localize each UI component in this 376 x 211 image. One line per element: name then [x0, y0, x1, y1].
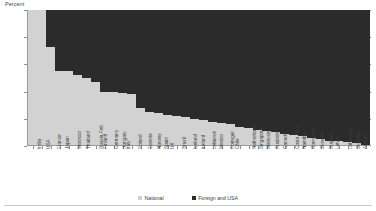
x-axis-label: Canada	[284, 133, 289, 149]
x-label-slot: Ireland	[190, 149, 198, 191]
x-label-slot: Austria	[352, 149, 360, 191]
x-label-slot: Hungary	[109, 149, 117, 191]
x-axis-label: Poland	[139, 134, 144, 149]
x-label-slot: Malaysia	[253, 149, 261, 191]
y-tick-mark-20	[24, 119, 27, 120]
x-label-slot: Lithuania	[334, 149, 342, 191]
x-axis-label: Singapore	[259, 128, 264, 149]
x-axis-label: Italy	[127, 140, 132, 149]
x-axis-label: Costa Rica	[296, 126, 301, 149]
x-label-slot: Mexico	[208, 149, 216, 191]
plot-frame	[27, 10, 371, 146]
x-axis-label: Morocco	[77, 131, 82, 149]
x-label-slot: Russia Fed.	[82, 149, 90, 191]
x-label-slot: India	[28, 149, 36, 191]
x-label-slot: Norway	[145, 149, 153, 191]
plot-area	[27, 10, 371, 146]
x-axis-label: Japan	[66, 136, 71, 149]
x-axis-label: Namibia	[302, 132, 307, 149]
x-label-slot: Costa Rica	[280, 149, 288, 191]
x-label-slot: Germany	[100, 149, 108, 191]
x-label-slot: Switzerland	[361, 149, 369, 191]
x-label-slot: Australia	[262, 149, 270, 191]
x-label-slot: Morocco	[64, 149, 72, 191]
x-label-slot: Netherlands	[235, 149, 243, 191]
x-label-slot: Iceland	[181, 149, 189, 191]
y-axis-title: Percent	[5, 1, 24, 7]
x-axis-label: Chile	[236, 138, 241, 149]
x-axis-label: Iceland	[193, 134, 198, 149]
x-axis-label: Mexico	[220, 134, 225, 149]
x-label-slot: Romania	[298, 149, 306, 191]
x-axis-label: Germany	[114, 130, 119, 149]
x-label-slot: Slovakia	[343, 149, 351, 191]
x-label-slot: Latvia	[325, 149, 333, 191]
x-label-slot: UK	[163, 149, 171, 191]
x-label-slot: Portugal	[217, 149, 225, 191]
x-label-slot: Slovenia	[307, 149, 315, 191]
chart-legend: NationalForeign and USA	[0, 193, 376, 203]
x-label-slot: Singapore	[244, 149, 252, 191]
x-label-slot: Namibia	[289, 149, 297, 191]
x-label-slot: Chile	[226, 149, 234, 191]
x-axis-label: Finland	[103, 134, 108, 149]
x-axis-label: Estonia	[148, 133, 153, 149]
x-label-slot: Brazil	[172, 149, 180, 191]
x-label-slot: Canada	[271, 149, 279, 191]
legend-label: Foreign and USA	[198, 195, 238, 201]
y-tick-mark-40	[24, 92, 27, 93]
x-label-slot: Japan	[55, 149, 63, 191]
y-tick-mark-80	[24, 37, 27, 38]
x-axis-label: Brazil	[182, 137, 187, 149]
x-axis-labels: IndiaUSAFranceJapanMoroccoThailandRussia…	[27, 149, 371, 191]
x-axis-label: Portugal	[230, 132, 235, 149]
x-axis-label: India	[38, 139, 43, 149]
x-label-slot: France	[46, 149, 54, 191]
legend-swatch-icon	[192, 196, 196, 200]
x-axis-label: Lebanon	[213, 131, 218, 149]
x-axis-label: Thailand	[86, 131, 91, 149]
x-axis-label: Australia	[276, 131, 281, 149]
x-label-slot: USA	[37, 149, 45, 191]
x-label-slot: Spain	[154, 149, 162, 191]
legend-swatch-icon	[138, 196, 142, 200]
chart-page: Percent 020406080100 IndiaUSAFranceJapan…	[0, 0, 376, 211]
x-axis-label: Austria	[364, 134, 369, 149]
x-axis-label: Spain	[165, 137, 170, 149]
x-label-slot: Thailand	[73, 149, 81, 191]
y-tick-mark-60	[24, 64, 27, 65]
x-label-slot: Bulgaria	[316, 149, 324, 191]
x-axis-label: Latvia	[336, 136, 341, 149]
x-axis-label: Slovenia	[320, 131, 325, 149]
x-axis-label: Romania	[312, 130, 317, 149]
x-axis-label: Lithuania	[348, 130, 353, 149]
bottom-divider	[4, 205, 372, 206]
x-axis-label: Netherlands	[252, 124, 257, 149]
x-axis-label: USA	[46, 139, 51, 149]
x-label-slot: Poland	[127, 149, 135, 191]
legend-label: National	[145, 195, 164, 201]
legend-item[interactable]: Foreign and USA	[192, 195, 238, 201]
x-axis-label: France	[58, 134, 63, 149]
x-label-slot: Finland	[91, 149, 99, 191]
x-axis-label: Norway	[157, 133, 162, 149]
x-label-slot: Estonia	[136, 149, 144, 191]
y-tick-mark-100	[24, 10, 27, 11]
x-axis-label: Ireland	[202, 135, 207, 149]
legend-item[interactable]: National	[138, 195, 164, 201]
x-axis-label: Bulgaria	[329, 132, 334, 149]
x-axis-label: Malaysia	[267, 131, 272, 150]
x-label-slot: Italy	[118, 149, 126, 191]
x-axis-label: Slovakia	[356, 131, 361, 149]
x-label-slot: Lebanon	[199, 149, 207, 191]
